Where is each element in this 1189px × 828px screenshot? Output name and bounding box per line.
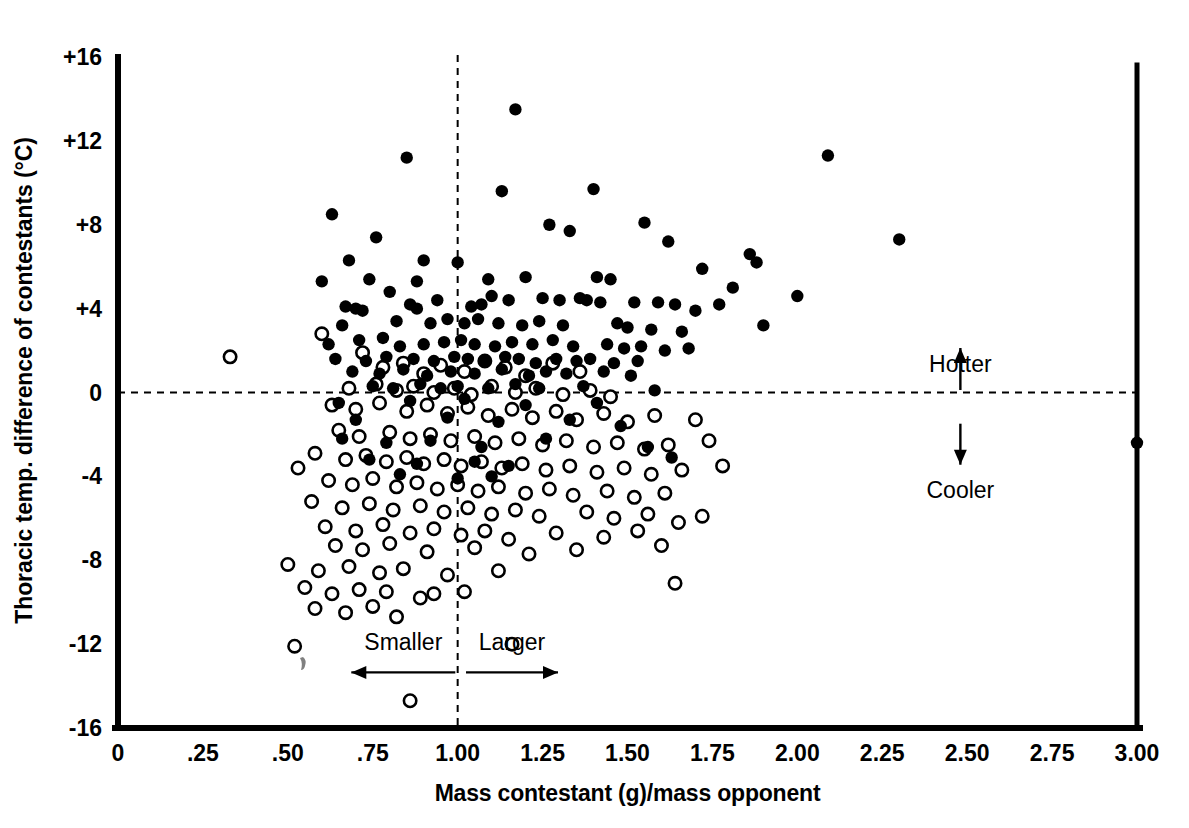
data-point-open [404,432,416,444]
x-tick-label: 0 [112,740,125,766]
data-point-open [401,405,413,417]
scan-speck-artifact [300,657,306,670]
data-point-open [642,508,654,520]
scatter-plot-figure: Thoracic temp. difference of contestants… [0,0,1189,828]
y-tick-label: 0 [89,380,102,406]
data-point-open [648,409,660,421]
data-point-open [322,474,334,486]
data-point-filled [519,399,531,411]
data-point-filled [482,273,494,285]
data-point-open [669,577,681,589]
data-point-filled [536,292,548,304]
data-point-filled [893,233,905,245]
data-point-open [346,479,358,491]
data-point-open [421,546,433,558]
data-point-open [564,460,576,472]
data-point-filled [316,275,328,287]
data-point-open [309,447,321,459]
data-point-open [441,569,453,581]
data-point-open [618,462,630,474]
data-point-filled [557,319,569,331]
data-point-filled [438,336,450,348]
data-point-open [550,405,562,417]
data-point-filled [411,458,423,470]
data-point-open [655,539,667,551]
data-point-filled [526,338,538,350]
data-point-open [305,495,317,507]
data-point-filled [509,378,521,390]
data-point-filled [547,334,559,346]
data-point-open [282,558,294,570]
data-point-open [557,388,569,400]
data-point-open [343,382,355,394]
data-point-open [662,439,674,451]
data-point-filled [458,393,470,405]
data-point-open [299,581,311,593]
data-point-filled [533,315,545,327]
arrow-left-icon [351,666,455,679]
data-point-open [611,437,623,449]
data-point-open [587,441,599,453]
data-point-open [438,453,450,465]
data-point-open [292,462,304,474]
data-point-filled [367,380,379,392]
data-point-filled [635,340,647,352]
data-point-filled [356,305,368,317]
data-point-filled [676,325,688,337]
data-point-open [367,472,379,484]
y-tick-label: +4 [76,296,102,322]
data-point-open [390,481,402,493]
y-tick-label: -12 [69,631,102,657]
data-point-open [631,525,643,537]
x-tick-labels-group: 0.25.50.751.001.251.501.752.002.252.502.… [112,740,1160,766]
data-point-open [468,430,480,442]
annotation-smaller: Smaller [351,629,455,679]
data-point-filled [350,414,362,426]
data-point-open [560,435,572,447]
x-tick-label: 1.25 [520,740,565,766]
data-point-filled [418,254,430,266]
data-point-open [543,483,555,495]
data-point-filled [591,397,603,409]
data-point-filled [475,441,487,453]
data-point-filled [485,470,497,482]
data-point-filled [638,216,650,228]
data-point-open [492,565,504,577]
data-point-open [428,523,440,535]
data-point-open [309,602,321,614]
annotation-cooler: Cooler [926,424,994,503]
data-point-filled [567,340,579,352]
data-point-filled [329,353,341,365]
data-point-filled [540,365,552,377]
data-point-open [312,565,324,577]
data-point-filled [642,441,654,453]
arrow-down-icon [954,424,967,465]
x-tick-label: 2.00 [775,740,820,766]
data-point-filled [492,317,504,329]
data-point-open [455,529,467,541]
scan-artifact-group [300,657,306,670]
data-point-open [516,458,528,470]
data-point-filled [608,357,620,369]
data-point-open [513,432,525,444]
data-point-open [540,464,552,476]
data-point-open [377,518,389,530]
data-point-open [567,489,579,501]
data-point-filled [451,256,463,268]
data-point-open [492,481,504,493]
data-point-filled [451,380,463,392]
data-point-filled [445,365,457,377]
data-point-open [689,414,701,426]
data-point-filled [648,384,660,396]
data-point-filled [662,235,674,247]
data-point-filled [659,344,671,356]
data-point-filled [404,395,416,407]
data-point-filled [333,397,345,409]
data-point-filled [390,315,402,327]
data-point-filled [451,472,463,484]
data-point-open [384,426,396,438]
data-point-filled [502,294,514,306]
data-point-open [387,504,399,516]
annotation-hotter: Hotter [929,348,992,390]
data-point-filled [424,435,436,447]
